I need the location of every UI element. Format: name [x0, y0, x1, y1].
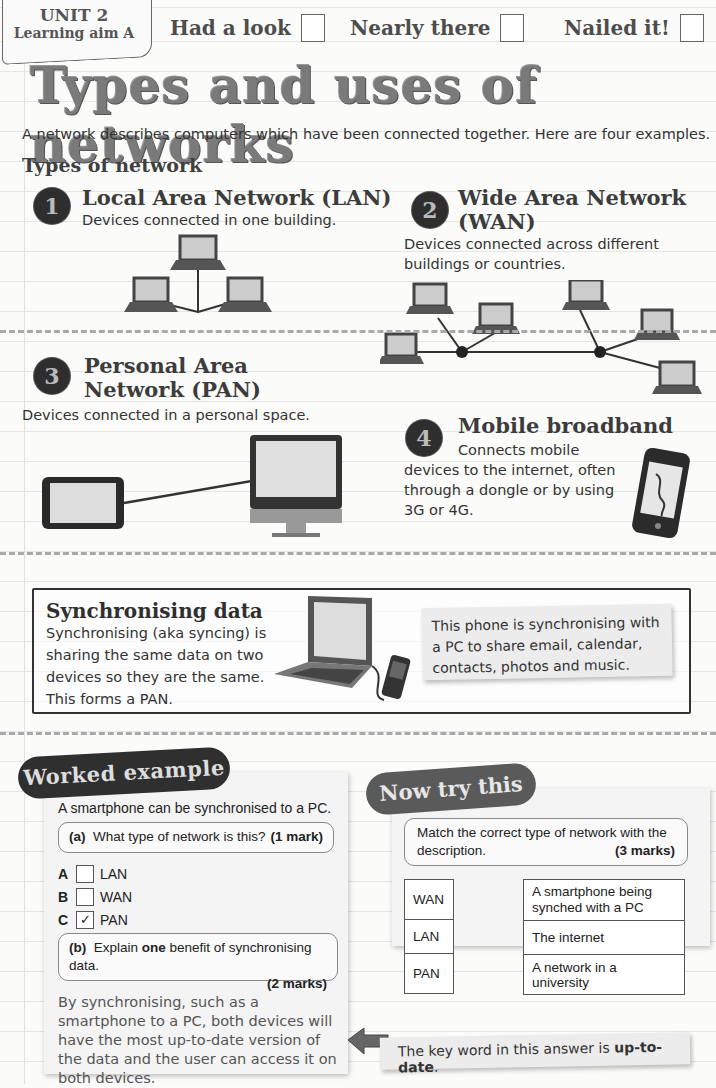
option-letter: A [58, 866, 72, 882]
worked-example-question: A smartphone can be synchronised to a PC… [58, 800, 331, 816]
sync-title: Synchronising data [46, 599, 263, 623]
option-b[interactable]: B WAN [58, 888, 132, 906]
phone-icon [381, 654, 411, 700]
network-type-cell[interactable]: LAN [405, 920, 454, 954]
option-a[interactable]: A LAN [58, 865, 127, 883]
section-desc-pan: Devices connected in a personal space. [22, 405, 310, 425]
learning-aim: Learning aim A [4, 24, 144, 42]
types-heading: Types of network [22, 154, 202, 176]
unit-number: UNIT 2 [4, 6, 144, 24]
key-note-text: The key word in this answer is [398, 1040, 614, 1060]
progress-had-a-look[interactable]: Had a look [170, 14, 325, 42]
description-cell[interactable]: A smartphone being synched with a PC [524, 880, 685, 921]
section-desc-lan: Devices connected in one building. [82, 210, 336, 230]
tablet-icon [42, 477, 124, 529]
question-a-prefix: (a) [69, 829, 86, 844]
progress-label: Nearly there [350, 16, 490, 40]
option-a-checkbox[interactable] [76, 865, 94, 883]
option-letter: B [58, 889, 72, 905]
description-column: A smartphone being synched with a PC The… [523, 879, 685, 995]
laptop-network-icon [120, 232, 290, 322]
wide-network-icon [380, 280, 716, 400]
progress-label: Had a look [170, 16, 291, 40]
question-b-prefix: (b) [69, 940, 86, 955]
number-badge-2: 2 [412, 192, 448, 228]
tablet-monitor-icon [36, 425, 356, 545]
option-c[interactable]: C ✓ PAN [58, 911, 128, 929]
network-type-column: WAN LAN PAN [404, 879, 454, 994]
smartphone-icon [632, 446, 694, 542]
question-b-bold: one [142, 940, 166, 955]
progress-nailed-it[interactable]: Nailed it! [564, 14, 704, 42]
section-title-wan: Wide Area Network (WAN) [458, 186, 698, 234]
question-b-box: (b) Explain one benefit of synchronising… [58, 933, 338, 981]
number-badge-1: 1 [34, 188, 70, 224]
laptop-icon [170, 236, 226, 270]
section-title-lan: Local Area Network (LAN) [82, 186, 391, 210]
worked-example-answer: By synchronising, such as a smartphone t… [58, 993, 348, 1088]
checkbox-had-a-look[interactable] [301, 14, 325, 42]
question-a-marks: (1 mark) [270, 829, 323, 846]
laptop-phone-sync-icon [268, 592, 418, 704]
divider [0, 732, 716, 735]
section-desc-mobile: Connects mobile devices to the internet,… [404, 440, 634, 520]
description-cell[interactable]: A network in a university [524, 955, 685, 995]
option-c-checkbox[interactable]: ✓ [76, 911, 94, 929]
section-title-pan: Personal Area Network (PAN) [84, 354, 354, 402]
divider [0, 330, 716, 333]
sync-description: Synchronising (aka syncing) is sharing t… [46, 622, 286, 710]
divider [0, 552, 716, 555]
question-b-marks: (2 marks) [267, 976, 327, 991]
option-letter: C [58, 912, 72, 928]
instruction-marks: (3 marks) [615, 843, 675, 858]
laptop-icon [218, 278, 272, 312]
checkbox-nailed-it[interactable] [680, 14, 704, 42]
key-word-note: The key word in this answer is up-to-dat… [380, 1032, 691, 1069]
instruction-box: Match the correct type of network with t… [404, 818, 688, 866]
option-label: PAN [100, 912, 128, 928]
section-desc-wan: Devices connected across different build… [404, 234, 684, 274]
laptop-icon [124, 278, 178, 312]
progress-nearly-there[interactable]: Nearly there [350, 14, 524, 42]
laptop-icon [274, 596, 372, 688]
progress-label: Nailed it! [564, 16, 670, 40]
monitor-icon [250, 435, 342, 537]
network-type-cell[interactable]: PAN [405, 954, 454, 994]
section-title-mobile: Mobile broadband [458, 414, 673, 438]
option-label: LAN [100, 866, 127, 882]
option-label: WAN [100, 889, 132, 905]
question-a-text: What type of network is this? [93, 829, 266, 844]
number-badge-3: 3 [34, 358, 70, 394]
question-b-text: Explain [94, 940, 142, 955]
network-type-cell[interactable]: WAN [405, 880, 454, 920]
checkbox-nearly-there[interactable] [500, 14, 524, 42]
sync-note: This phone is synchronising with a PC to… [421, 604, 672, 680]
key-note-text: . [434, 1059, 439, 1075]
option-b-checkbox[interactable] [76, 888, 94, 906]
description-cell[interactable]: The internet [524, 921, 685, 955]
intro-text: A network describes computers which have… [22, 126, 710, 142]
question-a-box: (a) What type of network is this? (1 mar… [58, 822, 334, 853]
unit-label: UNIT 2 Learning aim A [4, 6, 144, 42]
